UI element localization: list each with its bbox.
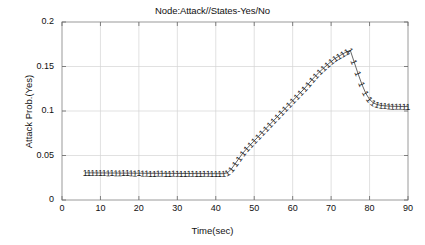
data-point-marker: 1 [356, 80, 367, 88]
plot-area: 1111111111111111111111111111111111111111… [0, 0, 425, 245]
data-point-marker: 1 [352, 70, 363, 78]
figure-canvas: Node:Attack//States-Yes/No Attack Prob.(… [0, 0, 425, 245]
data-point-marker: 1 [406, 102, 411, 112]
data-series-markers: 1111111111111111111111111111111111111111… [83, 46, 411, 179]
data-point-marker: 1 [348, 58, 359, 66]
